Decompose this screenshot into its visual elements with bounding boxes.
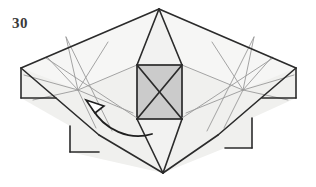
step-number-label: 30 bbox=[12, 16, 28, 31]
origami-diagram-canvas bbox=[0, 0, 316, 187]
origami-figure: 30 bbox=[0, 0, 316, 187]
